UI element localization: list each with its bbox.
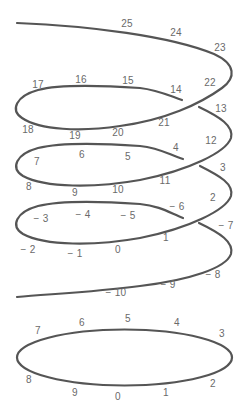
spiral-segment-second (16, 107, 231, 186)
ring-label: 4 (174, 318, 180, 328)
spiral-label: − 9 (160, 280, 175, 290)
ring-label: 0 (115, 392, 121, 402)
ring-label: 3 (219, 329, 225, 339)
modular-ring (17, 330, 232, 386)
spiral-segment-third (16, 166, 231, 244)
spiral-label: 20 (112, 128, 124, 138)
spiral-label: 12 (205, 136, 217, 146)
ring-label: 6 (79, 318, 85, 328)
spiral-label: 2 (210, 193, 216, 203)
spiral-label: 13 (215, 104, 227, 114)
spiral-label: 7 (34, 157, 40, 167)
spiral-label: 15 (122, 76, 134, 86)
spiral-label: 8 (26, 182, 32, 192)
spiral-label: 1 (163, 233, 169, 243)
ring-label: 8 (26, 375, 32, 385)
spiral-label: − 2 (20, 245, 35, 255)
ring-label: 9 (72, 388, 78, 398)
spiral-label: − 7 (218, 221, 233, 231)
spiral-diagram (0, 0, 249, 414)
spiral-label: 0 (115, 245, 121, 255)
ring-label: 7 (35, 326, 41, 336)
spiral-label: 22 (204, 78, 216, 88)
ring-label: 1 (163, 388, 169, 398)
spiral-label: 5 (125, 152, 131, 162)
spiral-label: 14 (170, 85, 182, 95)
spiral-label: − 6 (169, 202, 184, 212)
spiral-label: 25 (121, 19, 133, 29)
spiral-label: − 4 (75, 210, 90, 220)
spiral-label: 10 (112, 185, 124, 195)
spiral-label: 6 (79, 150, 85, 160)
spiral-segment-bottom (17, 223, 231, 297)
spiral-label: 16 (75, 75, 87, 85)
spiral-label: − 5 (120, 211, 135, 221)
spiral-label: 3 (220, 163, 226, 173)
spiral-label: 19 (69, 131, 81, 141)
spiral-label: − 3 (33, 214, 48, 224)
ring-label: 2 (210, 379, 216, 389)
spiral-label: 24 (170, 28, 182, 38)
spiral-label: − 10 (106, 288, 127, 298)
spiral-label: 17 (32, 80, 44, 90)
spiral-label: − 8 (205, 270, 220, 280)
spiral-label: 4 (173, 143, 179, 153)
spiral-label: 23 (214, 43, 226, 53)
spiral-label: 18 (22, 125, 34, 135)
spiral-label: 21 (158, 118, 170, 128)
spiral-label: 9 (72, 188, 78, 198)
ring-label: 5 (125, 314, 131, 324)
spiral-label: − 1 (67, 249, 82, 259)
spiral-label: 11 (160, 176, 171, 186)
